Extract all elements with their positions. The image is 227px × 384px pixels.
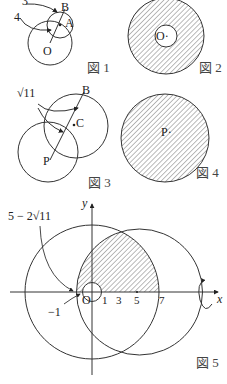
label-c: C (76, 116, 84, 130)
label-b-fig3: B (82, 83, 90, 97)
circle-p (18, 122, 78, 182)
label-3: 3 (22, 0, 28, 8)
tick-3: 3 (116, 294, 122, 306)
caption-fig2: 図 2 (199, 60, 222, 75)
label-p: P (43, 154, 50, 168)
label-a: A (65, 16, 74, 30)
label-x-axis: x (216, 292, 223, 306)
label-neg1: −1 (48, 305, 61, 319)
figure-5 (10, 204, 218, 375)
label-sqrt11: √11 (17, 86, 35, 100)
label-p-fig4: P· (161, 125, 172, 139)
arrow-sqrt11-b (38, 104, 78, 111)
diagram-canvas: B A O 3 4 図 1 O· 図 2 B C P √11 図 3 P· 図 … (0, 0, 227, 384)
label-y-axis: y (81, 196, 88, 210)
rotation-arrow (199, 280, 212, 309)
caption-fig5: 図 5 (196, 355, 219, 370)
arrow-4 (20, 18, 51, 30)
figure-3 (18, 92, 108, 182)
label-o: O (43, 44, 52, 58)
label-o-fig2: O· (156, 29, 169, 43)
caption-fig1: 図 1 (87, 60, 110, 75)
caption-fig4: 図 4 (196, 165, 219, 180)
arrow-3 (26, 4, 57, 12)
tick-1: 1 (102, 294, 108, 306)
label-origin: O (82, 293, 91, 307)
label-b: B (61, 0, 69, 14)
caption-fig3: 図 3 (88, 175, 111, 190)
tick-5: 5 (134, 294, 140, 306)
tick-7: 7 (159, 294, 165, 306)
label-4: 4 (14, 10, 20, 24)
label-5-minus-2sqrt11: 5 − 2√11 (8, 209, 51, 223)
